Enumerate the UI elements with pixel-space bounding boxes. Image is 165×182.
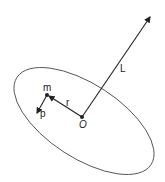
angular-momentum-diagram: m r p O L: [0, 0, 165, 182]
label-L: L: [120, 63, 126, 74]
label-r: r: [66, 97, 70, 108]
label-m: m: [43, 82, 51, 93]
mass-point: [45, 93, 49, 97]
label-O: O: [79, 119, 87, 130]
orbit-plane-ellipse: [0, 46, 165, 182]
angular-momentum-vector-L: [82, 17, 150, 117]
label-p: p: [40, 108, 46, 119]
